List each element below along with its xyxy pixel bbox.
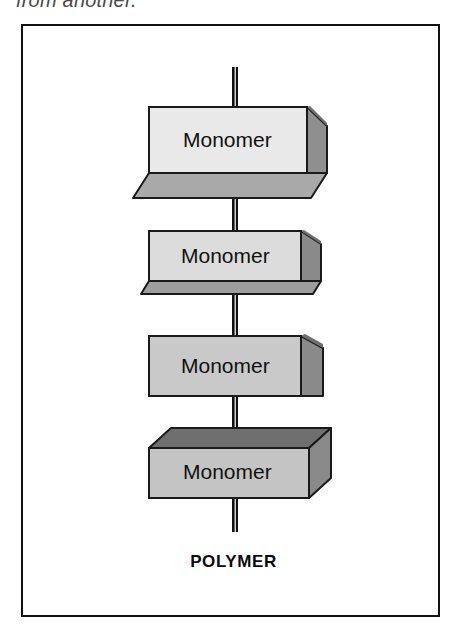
monomer-block-2-front-face xyxy=(149,231,301,281)
polymer-chain-svg xyxy=(23,26,442,619)
polymer-label: POLYMER xyxy=(23,552,438,572)
monomer-block-2-side-face xyxy=(301,231,321,281)
monomer-block-2 xyxy=(141,230,321,294)
monomer-block-1-side-face xyxy=(307,107,327,173)
monomer-block-1-bottom-face xyxy=(133,173,327,198)
monomer-block-4-front-face xyxy=(149,448,309,498)
caption-above-figure: from another. xyxy=(16,0,137,12)
monomer-block-3-front-face xyxy=(149,336,301,396)
monomer-block-3 xyxy=(149,334,323,396)
bond-rod-highlight-top xyxy=(235,67,236,107)
monomer-block-4 xyxy=(149,428,331,498)
bond-rod-highlight-bottom xyxy=(235,496,236,532)
monomer-block-2-bottom-face xyxy=(141,281,321,294)
polymer-chain-diagram: Monomer Monomer Monomer Monomer xyxy=(23,26,442,619)
monomer-block-1 xyxy=(133,106,327,198)
figure-frame: Monomer Monomer Monomer Monomer POLYMER xyxy=(21,24,440,617)
monomer-block-4-top-face xyxy=(149,428,331,448)
monomer-block-1-front-face xyxy=(149,107,307,173)
